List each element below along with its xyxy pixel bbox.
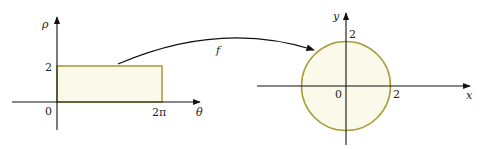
polar-mapping-diagram: ρ θ 0 2 2π f y x 0 2 2 xyxy=(0,0,483,149)
x-axis-label: x xyxy=(466,89,473,102)
left-origin-label: 0 xyxy=(45,105,52,118)
left-x-tick-label: 2π xyxy=(152,106,166,119)
left-plot: ρ θ 0 2 2π xyxy=(12,17,203,130)
theta-axis-label: θ xyxy=(196,106,203,119)
right-x-tick-label: 2 xyxy=(393,88,400,101)
rectangle-region xyxy=(57,66,162,102)
rho-axis-label: ρ xyxy=(41,18,49,31)
mapping-label: f xyxy=(215,44,222,57)
left-y-tick-label: 2 xyxy=(45,61,52,74)
mapping-arrow: f xyxy=(118,38,314,64)
right-y-tick-label: 2 xyxy=(349,28,356,41)
right-origin-label: 0 xyxy=(335,88,342,101)
right-plot: y x 0 2 2 xyxy=(257,10,473,145)
y-axis-label: y xyxy=(332,10,340,23)
